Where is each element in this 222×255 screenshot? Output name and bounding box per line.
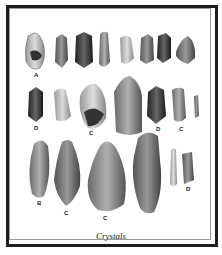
specimen-label-d: D bbox=[156, 126, 160, 132]
row-1-crystals bbox=[25, 32, 195, 69]
specimen-label-b: B bbox=[37, 200, 41, 206]
specimen-label-d: D bbox=[186, 186, 190, 192]
row-2-crystals bbox=[28, 76, 199, 135]
row-3-crystals bbox=[29, 132, 194, 213]
specimen-label-c: C bbox=[179, 126, 183, 132]
specimen-label-a: A bbox=[34, 72, 38, 78]
specimen-label-c: C bbox=[103, 215, 107, 221]
specimen-label-c: C bbox=[64, 210, 68, 216]
specimen-label-d: D bbox=[34, 125, 38, 131]
figure-caption: Crystals bbox=[0, 231, 222, 241]
specimen-label-c: C bbox=[89, 130, 93, 136]
